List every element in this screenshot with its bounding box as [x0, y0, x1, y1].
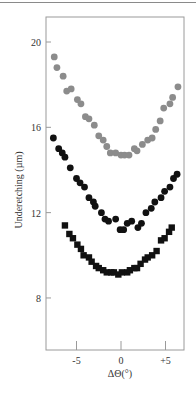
circle-marker: [105, 218, 112, 225]
circle-marker: [167, 184, 174, 191]
series-gray-circles: [51, 54, 182, 159]
circle-marker: [152, 126, 159, 133]
circle-marker: [149, 135, 156, 142]
circle-marker: [98, 209, 105, 216]
circle-marker: [160, 105, 167, 112]
axis-tick-labels: -50+58121620: [31, 37, 171, 366]
circle-marker: [51, 54, 58, 61]
circle-marker: [86, 115, 93, 122]
y-tick-label: 12: [31, 208, 41, 219]
circle-marker: [60, 73, 67, 80]
circle-marker: [103, 143, 110, 150]
circle-marker: [138, 220, 145, 227]
circle-marker: [167, 100, 174, 107]
circle-marker: [161, 188, 168, 195]
circle-marker: [174, 171, 181, 178]
circle-marker: [143, 209, 150, 216]
y-tick-label: 20: [31, 37, 41, 48]
circle-marker: [157, 118, 164, 125]
x-axis-title: ΔΘ(°): [108, 368, 132, 380]
x-tick-label: +5: [160, 355, 171, 366]
y-tick-label: 8: [36, 293, 41, 304]
square-marker: [161, 235, 167, 241]
axis-ticks: [46, 42, 166, 350]
series-black-circles: [50, 135, 181, 234]
square-marker: [169, 224, 175, 230]
circle-marker: [134, 147, 141, 154]
circle-marker: [158, 194, 165, 201]
data-series: [50, 54, 181, 278]
square-marker: [153, 248, 159, 254]
circle-marker: [151, 199, 158, 206]
square-marker: [78, 246, 84, 252]
circle-marker: [100, 137, 107, 144]
circle-marker: [139, 141, 146, 148]
circle-marker: [54, 64, 61, 71]
y-axis-title: Underetching (µm): [13, 151, 25, 228]
circle-marker: [175, 83, 182, 90]
square-marker: [62, 222, 68, 228]
circle-marker: [148, 205, 155, 212]
circle-marker: [50, 135, 57, 142]
circle-marker: [91, 122, 98, 129]
circle-marker: [128, 218, 135, 225]
circle-marker: [62, 154, 69, 161]
circle-marker: [169, 94, 176, 101]
plot-frame: [46, 17, 184, 350]
square-marker: [70, 235, 76, 241]
x-tick-label: -5: [72, 355, 80, 366]
circle-marker: [81, 184, 88, 191]
underetching-scatter-chart: -50+58121620 Underetching (µm) ΔΘ(°): [0, 0, 196, 399]
circle-marker: [120, 226, 127, 233]
circle-marker: [68, 86, 75, 93]
y-tick-label: 16: [31, 122, 41, 133]
circle-marker: [78, 100, 85, 107]
x-tick-label: 0: [119, 355, 124, 366]
circle-marker: [126, 152, 133, 159]
circle-marker: [112, 216, 119, 223]
circle-marker: [67, 164, 74, 171]
circle-marker: [92, 203, 99, 210]
